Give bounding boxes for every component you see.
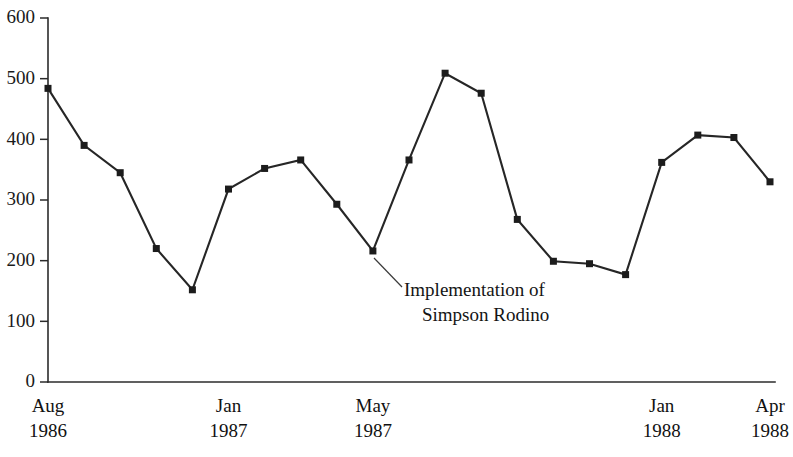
- data-point-marker: [117, 169, 124, 176]
- annotation-text-line1: Implementation of: [404, 279, 546, 300]
- x-tick-label-year-20: 1988: [751, 420, 789, 441]
- data-point-marker: [622, 271, 629, 278]
- x-tick-label-month-5: Jan: [216, 395, 242, 416]
- y-tick-label-600: 600: [7, 6, 36, 27]
- y-axis-tick-labels: 0100200300400500600: [7, 6, 36, 391]
- y-axis-ticks: [40, 18, 48, 382]
- data-point-marker: [333, 201, 340, 208]
- annotation-leader-line: [374, 258, 402, 287]
- data-point-marker: [658, 159, 665, 166]
- y-tick-label-500: 500: [7, 67, 36, 88]
- y-tick-label-100: 100: [7, 310, 36, 331]
- y-tick-label-0: 0: [26, 370, 36, 391]
- x-axis-tick-labels: Aug1986Jan1987May1987Jan1988Apr1988: [29, 395, 789, 441]
- data-point-marker: [514, 216, 521, 223]
- x-tick-label-year-0: 1986: [29, 420, 67, 441]
- y-axis-group: 0100200300400500600: [7, 6, 49, 391]
- x-tick-label-month-9: May: [355, 395, 390, 416]
- data-point-marker: [478, 90, 485, 97]
- data-point-marker: [586, 260, 593, 267]
- data-series-line: [48, 73, 770, 290]
- annotation-text-line2: Simpson Rodino: [422, 304, 549, 325]
- data-point-marker: [189, 286, 196, 293]
- x-axis-group: Aug1986Jan1987May1987Jan1988Apr1988: [29, 382, 789, 441]
- data-point-marker: [550, 258, 557, 265]
- y-tick-label-200: 200: [7, 249, 36, 270]
- y-tick-label-400: 400: [7, 128, 36, 149]
- x-tick-label-month-20: Apr: [755, 395, 785, 416]
- data-point-marker: [406, 156, 413, 163]
- data-point-markers: [45, 70, 774, 294]
- data-point-marker: [767, 178, 774, 185]
- data-point-marker: [694, 132, 701, 139]
- data-point-marker: [81, 142, 88, 149]
- data-point-marker: [442, 70, 449, 77]
- data-point-marker: [369, 247, 376, 254]
- data-point-marker: [261, 165, 268, 172]
- y-tick-label-300: 300: [7, 188, 36, 209]
- x-tick-label-year-5: 1987: [210, 420, 248, 441]
- data-point-marker: [45, 85, 52, 92]
- chart-canvas: 0100200300400500600 Aug1986Jan1987May198…: [0, 0, 793, 457]
- data-point-marker: [730, 134, 737, 141]
- x-tick-label-year-17: 1988: [643, 420, 681, 441]
- line-chart: 0100200300400500600 Aug1986Jan1987May198…: [0, 0, 793, 457]
- data-point-marker: [153, 245, 160, 252]
- x-tick-label-month-17: Jan: [649, 395, 675, 416]
- series-group: [45, 70, 774, 294]
- x-tick-label-year-9: 1987: [354, 420, 392, 441]
- annotation-group: Implementation ofSimpson Rodino: [374, 258, 549, 325]
- data-point-marker: [297, 156, 304, 163]
- data-point-marker: [225, 186, 232, 193]
- x-tick-label-month-0: Aug: [32, 395, 65, 416]
